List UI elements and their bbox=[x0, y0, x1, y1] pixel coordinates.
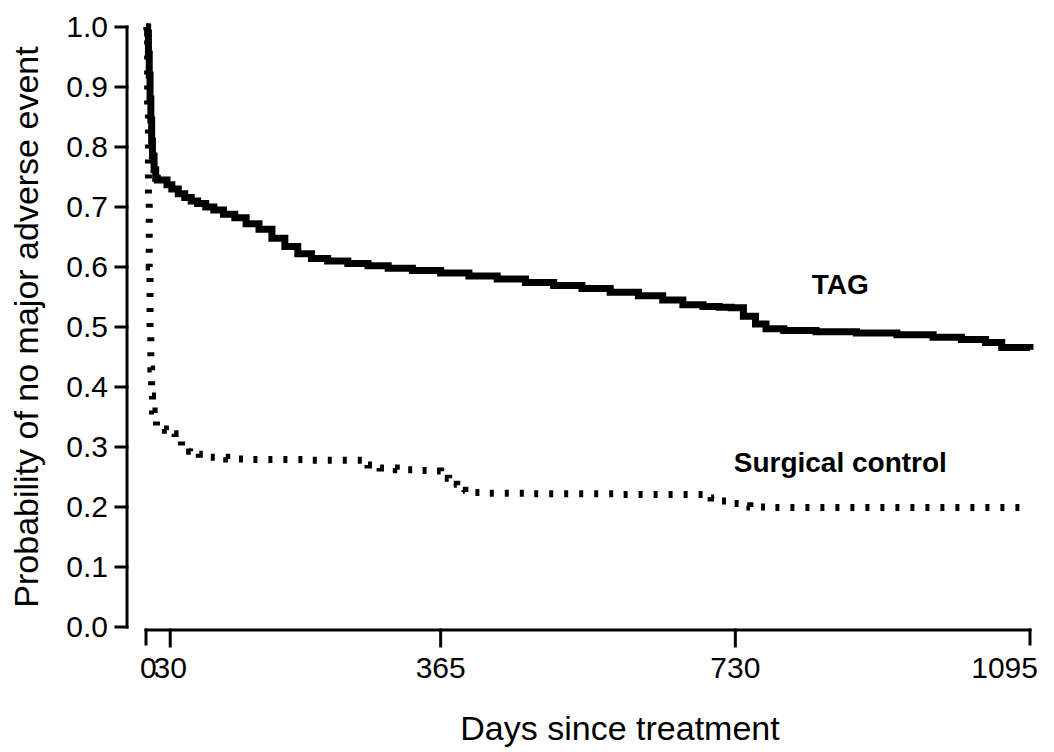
y-tick-label: 0.2 bbox=[66, 490, 108, 523]
y-tick-label: 1.0 bbox=[66, 10, 108, 43]
survival-plot: 0.00.10.20.30.40.50.60.70.80.91.0 030365… bbox=[0, 0, 1054, 752]
y-axis: 0.00.10.20.30.40.50.60.70.80.91.0 bbox=[66, 10, 127, 643]
x-tick-label: 365 bbox=[416, 651, 466, 684]
x-axis-ticks bbox=[146, 630, 1030, 646]
y-tick-label: 0.4 bbox=[66, 370, 108, 403]
kaplan-meier-figure: 0.00.10.20.30.40.50.60.70.80.91.0 030365… bbox=[0, 0, 1054, 752]
x-axis-tick-labels: 0303657301095 bbox=[140, 651, 1038, 684]
y-axis-ticks bbox=[116, 27, 127, 627]
x-tick-label: 730 bbox=[710, 651, 760, 684]
y-tick-label: 0.0 bbox=[66, 610, 108, 643]
x-axis-title: Days since treatment bbox=[460, 709, 780, 747]
annotation-surgical-control: Surgical control bbox=[734, 447, 947, 478]
curve-annotations: TAGSurgical control bbox=[734, 269, 947, 478]
y-tick-label: 0.8 bbox=[66, 130, 108, 163]
annotation-tag: TAG bbox=[812, 269, 869, 300]
y-tick-label: 0.3 bbox=[66, 430, 108, 463]
curve-surgical-control bbox=[146, 27, 1030, 508]
y-tick-label: 0.5 bbox=[66, 310, 108, 343]
y-axis-tick-labels: 0.00.10.20.30.40.50.60.70.80.91.0 bbox=[66, 10, 108, 643]
x-tick-label: 30 bbox=[154, 651, 187, 684]
x-tick-label: 1095 bbox=[971, 651, 1038, 684]
y-tick-label: 0.7 bbox=[66, 190, 108, 223]
y-tick-label: 0.6 bbox=[66, 250, 108, 283]
y-tick-label: 0.1 bbox=[66, 550, 108, 583]
curve-tag bbox=[146, 27, 1030, 350]
y-tick-label: 0.9 bbox=[66, 70, 108, 103]
y-axis-title: Probability of no major adverse event bbox=[7, 46, 45, 608]
x-axis: 0303657301095 bbox=[140, 630, 1038, 684]
survival-curves bbox=[146, 27, 1030, 508]
